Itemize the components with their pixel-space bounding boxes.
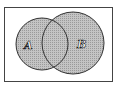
venn-diagram: A B bbox=[0, 0, 117, 86]
set-b-label: B bbox=[76, 38, 86, 51]
set-a-label: A bbox=[23, 39, 33, 52]
